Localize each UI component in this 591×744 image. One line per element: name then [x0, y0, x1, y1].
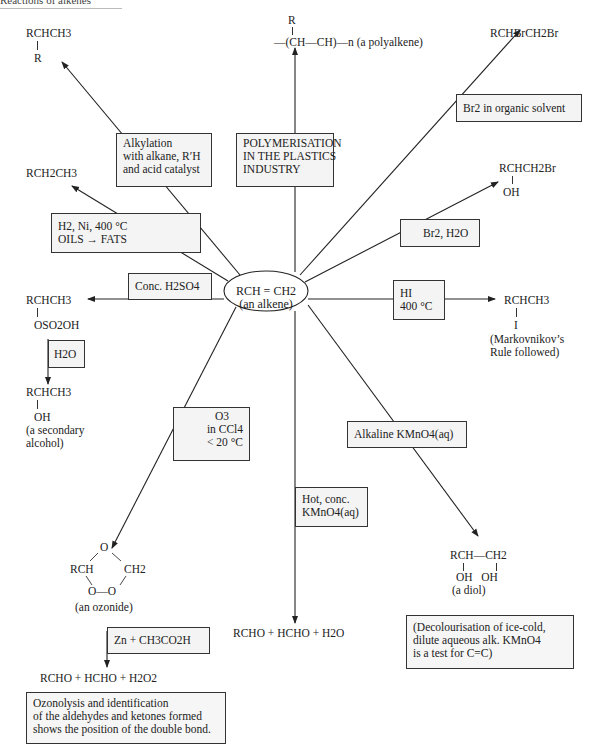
note-ozonolysis: Ozonolysis and identification of the ald… — [26, 692, 226, 744]
note-line: Ozonolysis and identification — [33, 697, 219, 710]
condition-br2-solvent: Br2 in organic solvent — [456, 94, 582, 122]
product-diol: RCH—CH2 — [450, 549, 507, 562]
condition-line: < 20 °C — [180, 436, 243, 449]
note-line: shows the position of the double bond. — [33, 723, 219, 736]
condition-line: in CCl4 — [180, 423, 243, 436]
condition-line: and acid catalyst — [123, 163, 205, 176]
condition-line: O3 — [180, 410, 243, 423]
condition-line: INDUSTRY — [243, 163, 327, 176]
diol-note: (a diol) — [452, 584, 486, 597]
product-diol-sub: OH OH — [456, 571, 498, 584]
condition-br2-water: Br2, H2O — [400, 219, 480, 247]
condition-line: H2, Ni, 400 °C — [58, 220, 194, 233]
condition-hot-kmno4: Hot, conc. KMnO4(aq) — [295, 487, 368, 527]
bond — [496, 563, 497, 571]
condition-alkaline-kmno4: Alkaline KMnO4(aq) — [347, 421, 467, 448]
condition-line: HI — [400, 287, 438, 300]
condition-line: POLYMERISATION — [243, 137, 327, 150]
product-hot-kmno4: RCHO + HCHO + H2O — [233, 627, 344, 640]
condition-polymerisation: POLYMERISATION IN THE PLASTICS INDUSTRY — [236, 133, 334, 187]
condition-zinc: Zn + CH3CO2H — [107, 627, 210, 654]
condition-line: Alkylation — [123, 137, 205, 150]
note-line: (Decolourisation of ice-cold, — [413, 621, 567, 634]
condition-alkylation: Alkylation with alkane, R′H and acid cat… — [116, 133, 212, 187]
condition-line: with alkane, R′H — [123, 150, 205, 163]
condition-line: Hot, conc. — [302, 493, 361, 506]
note-line: dilute aqueous alk. KMnO4 — [413, 634, 567, 647]
product-ozonolysis: RCHO + HCHO + H2O2 — [40, 672, 157, 685]
condition-hydrogenation: H2, Ni, 400 °C OILS → FATS — [51, 213, 201, 253]
condition-line: IN THE PLASTICS — [243, 150, 327, 163]
bond — [463, 563, 464, 571]
note-line: is a test for C=C) — [413, 647, 567, 660]
note-decolourisation: (Decolourisation of ice-cold, dilute aqu… — [406, 615, 574, 669]
note-line: of the aldehydes and ketones formed — [33, 710, 219, 723]
condition-line: 400 °C — [400, 300, 438, 313]
condition-ozone: O3 in CCl4 < 20 °C — [173, 407, 250, 461]
condition-water: H2O — [48, 340, 85, 368]
condition-hi: HI 400 °C — [393, 280, 445, 320]
condition-conc-h2so4: Conc. H2SO4 — [128, 273, 212, 300]
condition-line: KMnO4(aq) — [302, 506, 361, 519]
condition-line: OILS → FATS — [58, 233, 194, 246]
